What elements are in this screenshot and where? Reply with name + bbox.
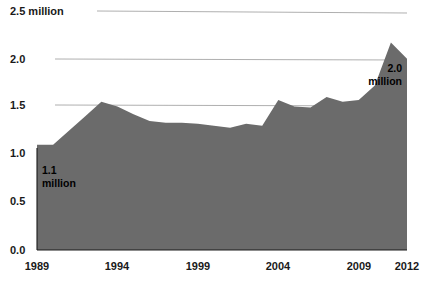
y-tick-label-1-0: 1.0: [10, 147, 25, 159]
y-tick-label-0-5: 0.5: [10, 195, 25, 207]
x-tick-label-2009: 2009: [347, 260, 371, 272]
annotation-start-value-line2: million: [42, 177, 76, 189]
x-tick-label-2012: 2012: [395, 260, 419, 272]
x-tick-label-1989: 1989: [25, 260, 49, 272]
chart-canvas: 2.5 million 2.0 1.5 1.0 0.5 0.0 1989 199…: [0, 0, 426, 291]
x-tick-label-2004: 2004: [266, 260, 291, 272]
y-tick-label-2-0: 2.0: [10, 53, 25, 65]
annotation-start-value-line1: 1.1: [42, 164, 57, 176]
y-tick-label-1-5: 1.5: [10, 99, 25, 111]
annotation-end-value-line1: 2.0: [387, 62, 402, 74]
y-tick-label-2-5: 2.5 million: [10, 5, 64, 17]
area-chart-figure: 2.5 million 2.0 1.5 1.0 0.5 0.0 1989 199…: [0, 0, 426, 291]
x-tick-label-1999: 1999: [186, 260, 210, 272]
x-tick-label-1994: 1994: [105, 260, 130, 272]
annotation-end-value-line2: million: [368, 75, 402, 87]
y-tick-label-0-0: 0.0: [10, 244, 25, 256]
